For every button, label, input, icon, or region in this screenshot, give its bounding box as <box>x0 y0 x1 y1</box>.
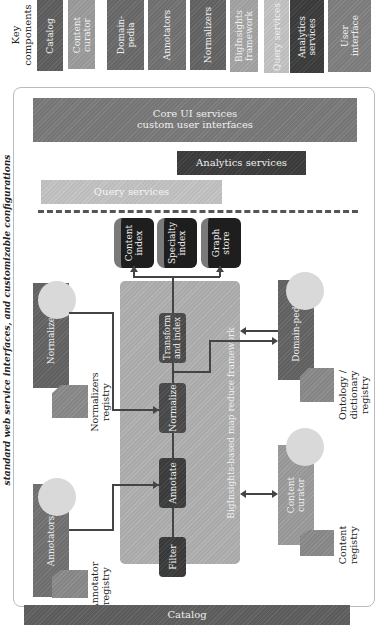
annotator-registry-icon <box>52 570 88 598</box>
legend-item-query-services: Query services <box>264 0 289 73</box>
connector <box>246 493 274 495</box>
arrow-left-icon <box>240 490 246 498</box>
caption: standard web service interfaces, and cus… <box>0 0 14 640</box>
connector <box>69 312 113 314</box>
content-registry-icon <box>300 530 334 556</box>
legend-item-catalog: Catalog <box>37 0 63 71</box>
connector <box>133 276 220 278</box>
annotators-bubble <box>38 478 76 516</box>
connector <box>69 529 113 531</box>
step-transform-and-index: Transform and index <box>159 313 186 363</box>
analytics-services-bar: Analytics services <box>177 151 306 175</box>
dashed-separator <box>38 210 358 213</box>
arrow-up-icon <box>130 266 138 272</box>
connector <box>172 433 174 458</box>
legend-item-annotators: Annotators <box>148 0 186 70</box>
domain-pedia-bubble <box>286 272 324 310</box>
legend-item-user-interface: User interface <box>328 0 371 72</box>
connector <box>112 484 159 486</box>
arrow-left-icon <box>240 327 246 335</box>
step-filter: Filter <box>159 537 186 577</box>
connector <box>209 340 274 342</box>
catalog-bar: Catalog <box>24 605 350 625</box>
core-ui-services-bar: Core UI services custom user interfaces <box>33 98 357 142</box>
arrow-right-icon <box>272 337 278 345</box>
connector <box>112 409 159 411</box>
content-registry-label: Contentregistry <box>334 520 364 570</box>
arrow-right-icon <box>153 406 159 414</box>
legend-item-biginsights-framework: BigInsights framework <box>230 0 258 72</box>
legend-item-domain-pedia: Domain-pedia <box>107 0 144 70</box>
legend-item-normalizers: Normalizers <box>190 0 226 70</box>
connector <box>173 371 210 373</box>
arrow-up-icon <box>216 266 224 272</box>
arrow-right-icon <box>272 490 278 498</box>
framework-label: BigInsights-based map reduce framework <box>223 281 239 564</box>
step-annotate: Annotate <box>159 458 186 508</box>
connector <box>172 276 174 316</box>
ontology-registry-icon <box>300 368 334 402</box>
legend-item-analytics-services: Analytics services <box>290 0 324 73</box>
normalizers-registry-label: Normalizersregistry <box>88 372 114 432</box>
connector <box>209 340 211 373</box>
connector <box>112 312 114 410</box>
graph-store: Graphstore <box>201 218 241 268</box>
query-services-bar: Query services <box>41 180 222 204</box>
connector <box>172 363 174 383</box>
step-normalize: Normalize <box>159 383 186 433</box>
content-index-store: Contentindex <box>114 218 154 268</box>
ontology-dictionary-registry-label: Ontology /dictionaryregistry <box>334 360 374 430</box>
content-curator-bubble <box>286 428 324 466</box>
arrow-right-icon <box>153 481 159 489</box>
specialty-index-store: Specialtyindex <box>157 218 197 268</box>
connector <box>172 508 174 537</box>
connector <box>244 330 278 332</box>
normalizers-registry-icon <box>52 385 88 418</box>
legend-item-content-curator: Content curator <box>68 0 95 69</box>
legend-title: Key components <box>6 0 36 70</box>
connector <box>112 484 114 531</box>
